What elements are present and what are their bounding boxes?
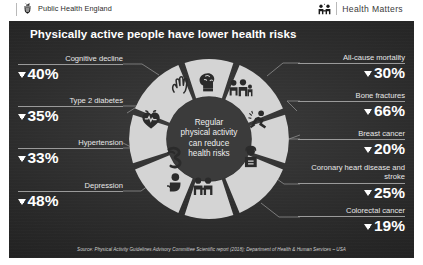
stat-value-text: 40% <box>28 65 59 82</box>
brand-bar: Public Health England Health Matters <box>0 0 423 20</box>
stat-category-label: Bone fractures <box>298 91 405 100</box>
stat-all-cause-mortality: All-cause mortality 30% <box>298 53 405 81</box>
stat-value-text: 48% <box>28 192 59 209</box>
down-arrow-icon <box>364 147 372 153</box>
stat-value-text: 19% <box>374 217 405 234</box>
down-arrow-icon <box>18 156 26 162</box>
stat-value: 66% <box>298 102 405 119</box>
stat-coronary-heart-disease-and-stroke: Coronary heart disease and stroke 25% <box>298 163 405 201</box>
stat-value: 30% <box>298 64 405 81</box>
down-arrow-icon <box>364 71 372 77</box>
stat-category-label: Cognitive decline <box>18 54 123 63</box>
stat-type-2-diabetes: Type 2 diabetes 35% <box>18 96 123 124</box>
stat-depression: Depression 48% <box>18 181 123 209</box>
stat-category-label: All-cause mortality <box>298 53 405 62</box>
down-arrow-icon <box>18 114 26 120</box>
down-arrow-icon <box>18 199 26 205</box>
poster-panel: Physically active people have lower heal… <box>9 21 414 258</box>
stat-cognitive-decline: Cognitive decline 40% <box>18 54 123 82</box>
stat-value: 40% <box>18 65 123 82</box>
stat-value-text: 20% <box>374 140 405 157</box>
stat-category-label: Colorectal cancer <box>298 206 405 215</box>
stat-colorectal-cancer: Colorectal cancer 19% <box>298 206 405 234</box>
stat-value-text: 25% <box>374 184 405 201</box>
stat-hypertension: Hypertension 33% <box>18 138 123 166</box>
risk-wheel: Regular physical activity can reduce hea… <box>125 55 293 223</box>
stat-value: 25% <box>298 184 405 201</box>
down-arrow-icon <box>364 109 372 115</box>
stat-value-text: 33% <box>28 149 59 166</box>
health-matters-mark-icon <box>318 3 331 15</box>
down-arrow-icon <box>364 224 372 230</box>
phe-logo-label: Public Health England <box>38 4 112 13</box>
stat-value: 19% <box>298 217 405 234</box>
health-matters-label: Health Matters <box>342 4 403 14</box>
stat-category-label: Type 2 diabetes <box>18 96 123 105</box>
stat-value: 33% <box>18 149 123 166</box>
stat-value-text: 66% <box>374 102 405 119</box>
stat-value: 20% <box>298 140 405 157</box>
down-arrow-icon <box>364 190 372 196</box>
stat-bone-fractures: Bone fractures 66% <box>298 91 405 119</box>
phe-logo: Public Health England <box>21 2 112 15</box>
phe-crest-icon <box>21 2 34 15</box>
infographic-page: Public Health England Health Matters Phy… <box>0 0 423 265</box>
stat-value-text: 35% <box>28 107 59 124</box>
stat-value: 48% <box>18 192 123 209</box>
stat-category-label: Coronary heart disease and stroke <box>298 163 405 182</box>
source-citation: Source: Physical Activity Guidelines Adv… <box>9 247 414 252</box>
logo-divider <box>336 2 337 15</box>
down-arrow-icon <box>18 72 26 78</box>
stat-category-label: Depression <box>18 181 123 190</box>
stat-value: 35% <box>18 107 123 124</box>
stat-category-label: Breast cancer <box>298 129 405 138</box>
health-matters-logo: Health Matters <box>318 2 403 15</box>
stat-value-text: 30% <box>374 64 405 81</box>
stat-category-label: Hypertension <box>18 138 123 147</box>
wheel-segments <box>125 55 293 223</box>
stat-breast-cancer: Breast cancer 20% <box>298 129 405 157</box>
